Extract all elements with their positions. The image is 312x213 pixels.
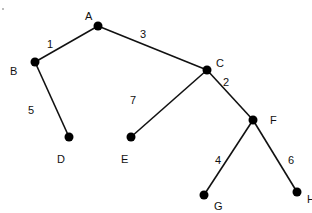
- edge-weight-c-f: 2: [223, 76, 229, 88]
- edge-weight-c-e: 7: [130, 94, 136, 106]
- edge-c-e: [131, 70, 207, 137]
- edge-weights-group: 1357246: [28, 28, 294, 166]
- node-g: [200, 191, 209, 200]
- node-label-b: B: [10, 65, 17, 77]
- node-b: [31, 58, 40, 67]
- tree-diagram: 1357246 ABCDEFGH: [0, 0, 312, 213]
- node-label-f: F: [270, 114, 277, 126]
- edge-weight-a-c: 3: [140, 28, 146, 40]
- edge-b-d: [35, 62, 69, 137]
- edge-a-b: [35, 26, 98, 62]
- node-label-a: A: [85, 10, 93, 22]
- edge-weight-f-g: 4: [215, 154, 221, 166]
- edge-weight-b-d: 5: [28, 104, 34, 116]
- node-d: [65, 133, 74, 142]
- edges-group: [35, 26, 297, 195]
- node-label-c: C: [216, 57, 224, 69]
- stray-mark: [2, 8, 4, 10]
- node-c: [203, 66, 212, 75]
- node-f: [249, 116, 258, 125]
- node-label-d: D: [57, 153, 65, 165]
- node-label-h: H: [307, 193, 312, 205]
- edge-weight-a-b: 1: [47, 38, 53, 50]
- node-h: [293, 188, 302, 197]
- node-e: [127, 133, 136, 142]
- edge-f-g: [204, 120, 253, 195]
- nodes-group: [31, 22, 302, 200]
- edge-a-c: [98, 26, 207, 70]
- node-label-g: G: [214, 200, 223, 212]
- node-label-e: E: [121, 153, 128, 165]
- edge-c-f: [207, 70, 253, 120]
- edge-weight-f-h: 6: [288, 154, 294, 166]
- node-a: [94, 22, 103, 31]
